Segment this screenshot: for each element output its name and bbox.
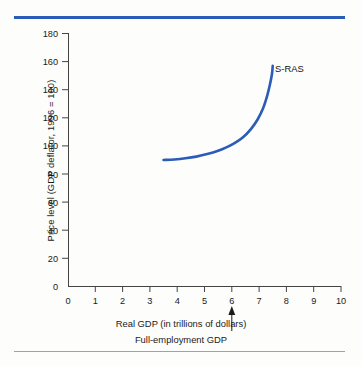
x-axis-label: Real GDP (in trillions of dollars)	[0, 318, 362, 329]
y-tick-label: 180	[43, 29, 58, 39]
x-tick-label: 9	[311, 296, 316, 306]
x-tick-labels: 0 1 2 3 4 5 6 7 8 9 10	[65, 296, 346, 306]
x-tick-label: 2	[120, 296, 125, 306]
series-label-sras: S-RAS	[275, 63, 304, 74]
x-tick-label: 10	[336, 296, 346, 306]
y-axis-ticks	[62, 34, 68, 259]
x-tick-label: 1	[93, 296, 98, 306]
full-employment-gdp-label: Full-employment GDP	[0, 334, 362, 345]
x-tick-label: 8	[284, 296, 289, 306]
y-axis-label: Price level (GDP deflator, 1996 = 100)	[45, 51, 56, 271]
arrow-up-icon	[228, 306, 235, 315]
x-tick-label: 0	[65, 296, 70, 306]
x-tick-label: 4	[175, 296, 180, 306]
sras-curve	[164, 66, 273, 160]
x-tick-label: 6	[229, 296, 234, 306]
chart-figure: 180 160 140 120 100 80 60 40 20 0 0	[0, 0, 362, 366]
x-tick-label: 5	[202, 296, 207, 306]
y-tick-label: 0	[53, 282, 58, 292]
bottom-rule-divider	[14, 351, 345, 352]
x-tick-label: 7	[257, 296, 262, 306]
x-tick-label: 3	[147, 296, 152, 306]
